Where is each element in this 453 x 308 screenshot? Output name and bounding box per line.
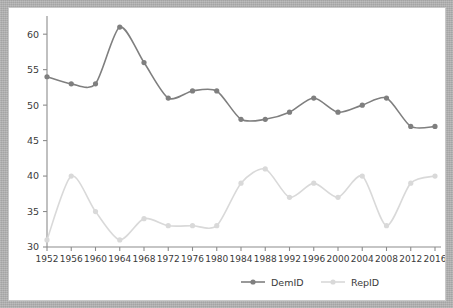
legend-label: RepID	[351, 277, 379, 288]
x-tick-label: 2016	[424, 254, 445, 264]
y-tick-label: 35	[27, 206, 39, 217]
y-tick-label: 40	[27, 170, 39, 181]
data-point[interactable]	[408, 124, 413, 129]
data-point[interactable]	[117, 237, 122, 242]
x-tick-label: 2008	[375, 254, 398, 264]
chart-panel: 30354045505560 1952195619601964196819721…	[9, 8, 445, 300]
data-point[interactable]	[238, 117, 243, 122]
legend-marker-icon	[250, 279, 255, 284]
x-tick-label: 1976	[181, 254, 204, 264]
y-tick-label: 30	[27, 241, 39, 252]
data-point[interactable]	[384, 223, 389, 228]
x-tick-label: 1992	[278, 254, 301, 264]
legend-item-demid[interactable]: DemID	[241, 277, 304, 288]
data-point[interactable]	[311, 95, 316, 100]
data-point[interactable]	[141, 216, 146, 221]
data-point[interactable]	[93, 209, 98, 214]
line-chart[interactable]: 30354045505560 1952195619601964196819721…	[9, 8, 445, 300]
series-group	[44, 24, 437, 242]
data-point[interactable]	[335, 110, 340, 115]
data-point[interactable]	[190, 88, 195, 93]
data-point[interactable]	[93, 81, 98, 86]
data-point[interactable]	[117, 24, 122, 29]
data-point[interactable]	[190, 223, 195, 228]
x-tick-label: 1980	[205, 254, 228, 264]
data-point[interactable]	[263, 117, 268, 122]
data-point[interactable]	[432, 124, 437, 129]
data-point[interactable]	[69, 173, 74, 178]
x-tick-label: 1984	[230, 254, 253, 264]
x-tick-label: 1960	[84, 254, 107, 264]
chart-legend[interactable]: DemIDRepID	[241, 277, 379, 288]
x-tick-label: 1964	[108, 254, 131, 264]
x-tick-label: 2004	[351, 254, 374, 264]
screenshot-root: 30354045505560 1952195619601964196819721…	[0, 0, 453, 308]
x-axis: 1952195619601964196819721976198019841988…	[36, 247, 445, 264]
data-point[interactable]	[287, 195, 292, 200]
legend-marker-icon	[330, 279, 335, 284]
x-tick-label: 2012	[399, 254, 422, 264]
data-point[interactable]	[384, 95, 389, 100]
legend-item-repid[interactable]: RepID	[321, 277, 379, 288]
series-line	[47, 27, 435, 128]
data-point[interactable]	[214, 88, 219, 93]
data-point[interactable]	[311, 181, 316, 186]
series-line	[47, 169, 435, 240]
x-tick-label: 1956	[60, 254, 83, 264]
data-point[interactable]	[44, 237, 49, 242]
y-tick-label: 55	[27, 64, 39, 75]
series-demid[interactable]	[44, 24, 437, 129]
data-point[interactable]	[360, 103, 365, 108]
data-point[interactable]	[432, 173, 437, 178]
data-point[interactable]	[166, 95, 171, 100]
data-point[interactable]	[408, 181, 413, 186]
data-point[interactable]	[44, 74, 49, 79]
legend-label: DemID	[271, 277, 304, 288]
data-point[interactable]	[287, 110, 292, 115]
series-repid[interactable]	[44, 166, 437, 242]
x-tick-label: 1996	[302, 254, 325, 264]
y-tick-label: 50	[27, 100, 39, 111]
data-point[interactable]	[238, 181, 243, 186]
data-point[interactable]	[141, 60, 146, 65]
data-point[interactable]	[360, 173, 365, 178]
x-tick-label: 1952	[36, 254, 59, 264]
y-tick-label: 60	[27, 29, 39, 40]
data-point[interactable]	[263, 166, 268, 171]
x-tick-label: 1988	[254, 254, 277, 264]
y-axis: 30354045505560	[27, 16, 47, 252]
x-tick-label: 2000	[327, 254, 350, 264]
x-tick-label: 1972	[157, 254, 180, 264]
y-tick-label: 45	[27, 135, 39, 146]
data-point[interactable]	[214, 223, 219, 228]
data-point[interactable]	[335, 195, 340, 200]
x-tick-label: 1968	[133, 254, 156, 264]
data-point[interactable]	[166, 223, 171, 228]
data-point[interactable]	[69, 81, 74, 86]
